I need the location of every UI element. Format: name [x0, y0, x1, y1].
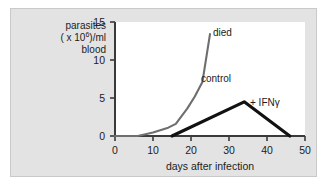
- y-axis-label-prefix: ( x 10: [60, 32, 85, 43]
- x-tick-label-20: 20: [185, 144, 197, 156]
- y-axis-label-line-2: ( x 106)/ml: [60, 31, 106, 43]
- y-axis-label-suffix: )/ml: [89, 32, 106, 43]
- chart-container: parasites ( x 106)/ml blood 0 5 10 15 0 …: [11, 9, 318, 178]
- annotation-control: control: [201, 73, 231, 84]
- y-tick-label-15: 15: [93, 16, 105, 28]
- annotation-ifng: + IFNγ: [250, 97, 280, 108]
- figure-panel: parasites ( x 106)/ml blood 0 5 10 15 0 …: [10, 8, 317, 177]
- y-tick-label-0: 0: [99, 130, 105, 142]
- x-axis-title: days after infection: [166, 160, 254, 172]
- x-tick-label-0: 0: [112, 144, 118, 156]
- chart-svg: parasites ( x 106)/ml blood 0 5 10 15 0 …: [11, 9, 318, 178]
- x-tick-label-30: 30: [223, 144, 235, 156]
- y-tick-label-10: 10: [93, 54, 105, 66]
- y-tick-label-5: 5: [99, 92, 105, 104]
- x-tick-label-50: 50: [299, 144, 311, 156]
- annotation-died: died: [213, 27, 232, 38]
- x-tick-label-10: 10: [147, 144, 159, 156]
- x-tick-label-40: 40: [261, 144, 273, 156]
